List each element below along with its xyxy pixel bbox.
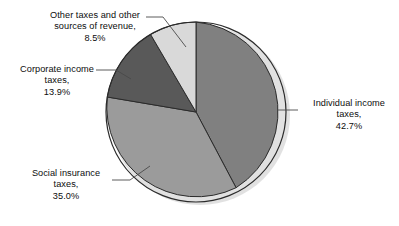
pie-label-social-insurance-taxes: Social insurance taxes, 35.0% xyxy=(10,168,122,202)
pie-label-other-taxes: Other taxes and other sources of revenue… xyxy=(28,10,162,44)
pie-label-corporate-income-taxes: Corporate income taxes, 13.9% xyxy=(2,64,112,98)
pie-label-individual-income-taxes: Individual income taxes, 42.7% xyxy=(300,98,398,132)
pie-chart-figure: Other taxes and other sources of revenue… xyxy=(0,0,399,226)
